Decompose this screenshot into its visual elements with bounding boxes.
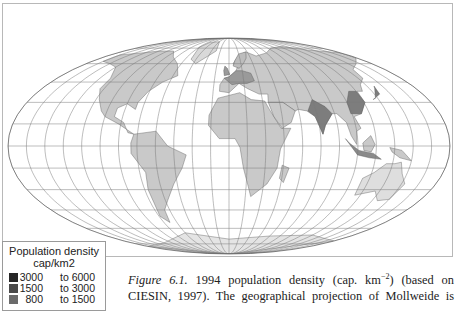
land-indonesia	[345, 139, 381, 160]
legend-swatch	[9, 295, 18, 304]
legend-to-value: to 1500	[60, 294, 95, 305]
graticule	[8, 38, 450, 254]
land-borneo	[363, 136, 375, 152]
legend-swatch	[9, 284, 18, 293]
legend-title-unit: cap/km2	[3, 257, 105, 269]
legend-title: Population density cap/km2	[3, 245, 105, 269]
figure-label: Figure 6.1.	[128, 273, 188, 287]
legend-swatch	[9, 273, 18, 282]
caption-text-1b: ) (based on	[389, 273, 454, 287]
legend: Population density cap/km2 3000to 600015…	[2, 241, 106, 311]
legend-row: 800to 1500	[3, 294, 105, 305]
land-new-guinea	[390, 148, 412, 161]
land-madagascar	[279, 165, 289, 182]
legend-from-value: 800	[25, 294, 43, 305]
caption-line-2: CIESIN, 1997). The geographical projecti…	[128, 288, 454, 304]
caption-line-1: Figure 6.1. 1994 population density (cap…	[128, 272, 454, 288]
legend-title-line1: Population density	[3, 245, 105, 257]
caption-text-1a: 1994 population density (cap. km	[188, 273, 381, 287]
land-japan	[373, 86, 380, 100]
figure-caption: Figure 6.1. 1994 population density (cap…	[128, 272, 454, 304]
